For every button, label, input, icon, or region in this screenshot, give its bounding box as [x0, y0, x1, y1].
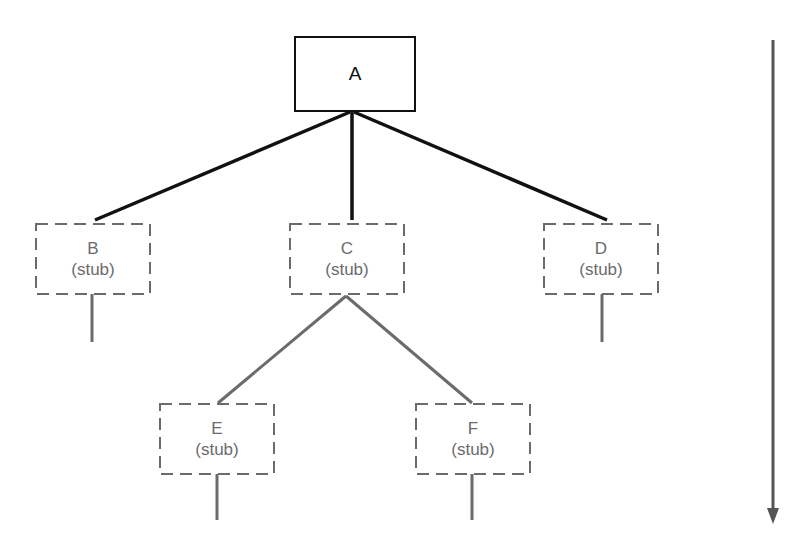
node-f-sublabel: (stub) [451, 439, 494, 460]
node-b-label: B [87, 238, 98, 259]
node-e-label: E [211, 418, 222, 439]
node-b-sublabel: (stub) [71, 259, 114, 280]
node-b: B (stub) [36, 224, 150, 294]
node-f-label: F [468, 418, 478, 439]
edge-a-b [95, 112, 350, 220]
node-d-label: D [595, 238, 607, 259]
node-c-sublabel: (stub) [325, 259, 368, 280]
node-e: E (stub) [160, 404, 274, 474]
node-c: C (stub) [290, 224, 404, 294]
edge-c-f [346, 296, 472, 403]
edge-c-e [218, 296, 346, 403]
node-f: F (stub) [416, 404, 530, 474]
node-d: D (stub) [544, 224, 658, 294]
node-a: A [294, 36, 416, 112]
direction-arrow-icon [767, 508, 779, 524]
node-c-label: C [341, 238, 353, 259]
node-a-label: A [349, 63, 362, 85]
edge-a-d [354, 112, 607, 220]
node-e-sublabel: (stub) [195, 439, 238, 460]
node-d-sublabel: (stub) [579, 259, 622, 280]
